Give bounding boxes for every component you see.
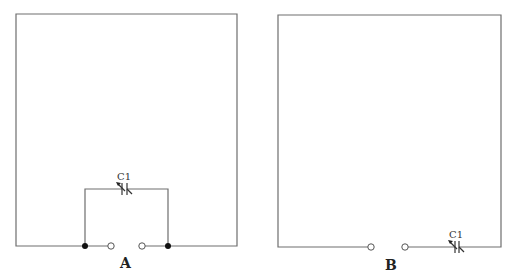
terminal-icon — [368, 244, 374, 250]
junction-dot-icon — [82, 243, 88, 249]
diagram-label-a: A — [119, 255, 132, 271]
capacitor-label-b: C1 — [449, 229, 463, 240]
variable-arrow-icon — [450, 242, 457, 249]
loop-b-wire — [278, 15, 501, 247]
diagram-a: C1 A — [16, 14, 237, 271]
terminal-icon — [139, 243, 145, 249]
arrowhead-icon — [116, 182, 121, 186]
diagram-b: C1 B — [278, 15, 501, 273]
junction-dot-icon — [165, 243, 171, 249]
terminal-icon — [108, 243, 114, 249]
branch-a-wire — [85, 189, 168, 246]
terminal-icon — [402, 244, 408, 250]
circuit-diagrams: C1 A C1 B — [0, 0, 515, 279]
loop-a-wire — [16, 14, 237, 246]
diagram-label-b: B — [385, 257, 397, 273]
capacitor-label-a: C1 — [117, 171, 131, 182]
arrowhead-icon — [448, 240, 453, 244]
